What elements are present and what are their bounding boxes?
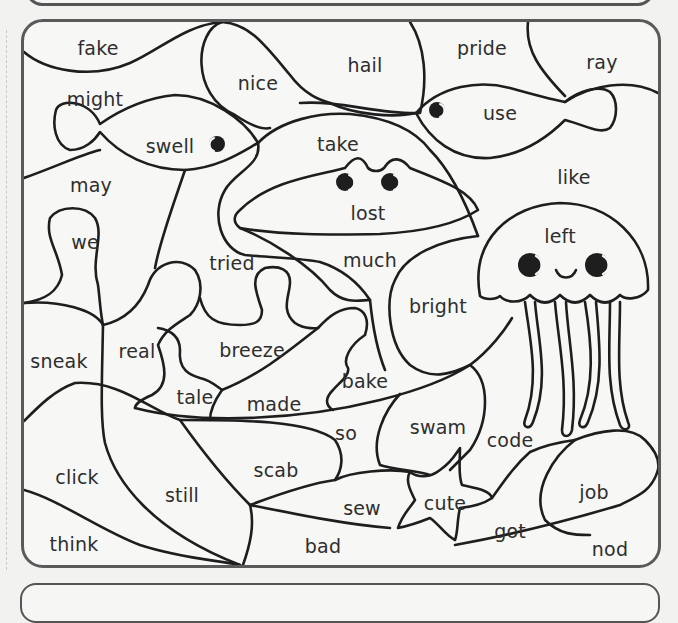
region-word-left[interactable]: left xyxy=(544,225,576,247)
region-word-like[interactable]: like xyxy=(557,166,590,188)
region-word-take[interactable]: take xyxy=(317,133,359,155)
region-word-ray[interactable]: ray xyxy=(586,51,617,73)
region-word-code[interactable]: code xyxy=(487,429,534,451)
region-word-much[interactable]: much xyxy=(343,249,397,271)
region-word-we[interactable]: we xyxy=(71,231,99,253)
region-word-nice[interactable]: nice xyxy=(238,72,278,94)
region-word-use[interactable]: use xyxy=(483,102,517,124)
region-word-hail[interactable]: hail xyxy=(347,54,382,76)
region-word-swam[interactable]: swam xyxy=(410,416,466,438)
region-word-scab[interactable]: scab xyxy=(254,459,299,481)
region-word-breeze[interactable]: breeze xyxy=(219,339,285,361)
region-word-think[interactable]: think xyxy=(50,533,99,555)
region-word-tried[interactable]: tried xyxy=(209,252,254,274)
region-word-still[interactable]: still xyxy=(165,484,199,506)
region-word-may[interactable]: may xyxy=(70,174,112,196)
region-word-nod[interactable]: nod xyxy=(592,538,628,560)
region-word-cute[interactable]: cute xyxy=(424,492,466,514)
region-word-tale[interactable]: tale xyxy=(177,386,214,408)
region-word-sneak[interactable]: sneak xyxy=(30,350,87,372)
region-word-sew[interactable]: sew xyxy=(343,497,381,519)
region-word-bad[interactable]: bad xyxy=(305,535,341,557)
region-word-job[interactable]: job xyxy=(579,481,609,503)
region-word-bright[interactable]: bright xyxy=(409,295,467,317)
answer-box xyxy=(20,583,660,623)
region-word-bake[interactable]: bake xyxy=(342,370,389,392)
region-word-might[interactable]: might xyxy=(67,88,123,110)
region-word-pride[interactable]: pride xyxy=(457,37,507,59)
region-word-made[interactable]: made xyxy=(247,393,302,415)
region-word-real[interactable]: real xyxy=(119,340,156,362)
region-word-so[interactable]: so xyxy=(335,422,357,444)
region-word-fake[interactable]: fake xyxy=(77,37,118,59)
region-word-swell[interactable]: swell xyxy=(146,135,195,157)
region-word-click[interactable]: click xyxy=(55,466,98,488)
region-word-lost[interactable]: lost xyxy=(350,202,385,224)
region-word-got[interactable]: got xyxy=(494,520,526,542)
